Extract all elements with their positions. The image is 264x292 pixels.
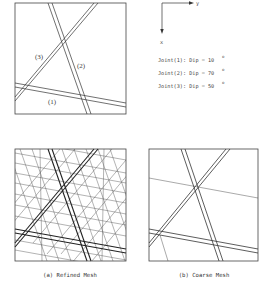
joint-1-dip-text: Joint(1): Dip = 10 bbox=[158, 57, 214, 64]
joint-3-line-b bbox=[15, 3, 98, 101]
caption-refined-mesh: (a) Refined Mesh bbox=[43, 272, 97, 278]
joint-1-line-b bbox=[15, 87, 126, 107]
joint-3-label: (3) bbox=[35, 53, 44, 61]
x-axis-label: x bbox=[160, 39, 163, 45]
degree-symbol: o bbox=[222, 80, 225, 85]
coarse-mesh-grid bbox=[149, 178, 258, 261]
joint-3-line-a bbox=[15, 3, 94, 97]
refined-mesh-panel: (a) Refined Mesh bbox=[0, 140, 160, 278]
refined-mesh-grid bbox=[0, 140, 160, 274]
joint-3-dip-text: Joint(3): Dip = 50 bbox=[158, 83, 214, 90]
joint-geometry-panel: (3) (2) (1) bbox=[15, 3, 126, 114]
joint-mesh-figure: (3) (2) (1) y x Joint(1): Dip = 10 o Joi… bbox=[0, 0, 264, 292]
panel-frame bbox=[149, 149, 258, 261]
degree-symbol: o bbox=[222, 54, 225, 59]
coarse-mesh-panel: (b) Coarse Mesh bbox=[149, 149, 258, 278]
caption-coarse-mesh: (b) Coarse Mesh bbox=[179, 272, 230, 278]
joint-1-line-a bbox=[15, 83, 126, 103]
joint-2-label: (2) bbox=[77, 62, 86, 70]
coarse-joints bbox=[149, 149, 258, 261]
y-arrowhead-icon bbox=[189, 1, 194, 4]
degree-symbol: o bbox=[222, 67, 225, 72]
axes-legend: y x Joint(1): Dip = 10 o Joint(2): Dip =… bbox=[158, 0, 225, 90]
x-arrowhead-icon bbox=[160, 29, 163, 34]
y-axis-label: y bbox=[196, 0, 199, 7]
joint-1-label: (1) bbox=[48, 98, 57, 106]
joint-2-dip-text: Joint(2): Dip = 70 bbox=[158, 70, 214, 77]
